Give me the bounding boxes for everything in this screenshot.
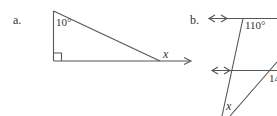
geometry-diagram <box>0 0 277 116</box>
angle-110-label: 110° <box>245 20 266 31</box>
right-angle-marker-icon <box>54 53 62 61</box>
figure-a-label: a. <box>13 14 21 26</box>
angle-14-label: 14 <box>269 73 277 84</box>
figure-b-label: b. <box>190 14 199 26</box>
angle-10-label: 10° <box>56 17 71 28</box>
unknown-x-label-a: x <box>163 48 168 60</box>
unknown-x-label-b: x <box>226 100 231 112</box>
